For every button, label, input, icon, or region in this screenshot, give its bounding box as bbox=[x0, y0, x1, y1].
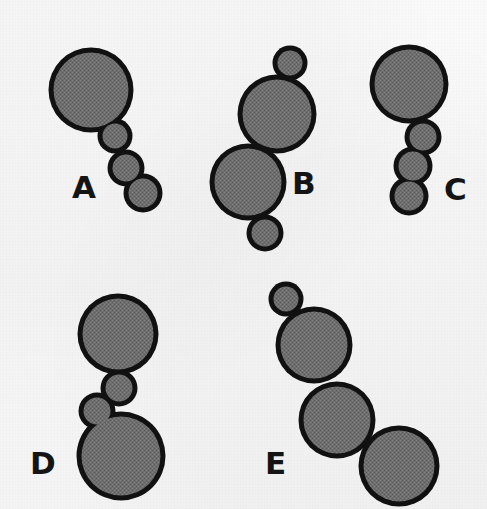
circle-group-e bbox=[269, 282, 440, 507]
circle-fill-e-1 bbox=[274, 287, 299, 312]
circle-fill-c-1 bbox=[375, 50, 444, 119]
circle-group-b bbox=[210, 46, 317, 252]
circle-fill-b-4 bbox=[252, 220, 279, 247]
circle-fill-d-2 bbox=[106, 375, 133, 402]
circle-groups-layer bbox=[49, 45, 449, 507]
circle-fill-b-3 bbox=[215, 149, 282, 216]
circle-group-c bbox=[370, 45, 449, 216]
circle-fill-b-1 bbox=[278, 51, 303, 76]
circle-fill-a-2 bbox=[103, 124, 128, 149]
circle-fill-a-1 bbox=[54, 53, 129, 128]
circle-fill-b-2 bbox=[243, 80, 312, 149]
circle-fill-e-4 bbox=[364, 431, 435, 502]
figure-canvas-container: ABCDE bbox=[0, 0, 487, 509]
circle-fill-c-2 bbox=[410, 124, 437, 151]
group-label-e: E bbox=[265, 448, 286, 479]
circle-fill-c-3 bbox=[399, 152, 428, 181]
group-label-b: B bbox=[292, 168, 316, 199]
circle-fill-e-2 bbox=[281, 312, 348, 379]
group-label-c: C bbox=[444, 174, 467, 205]
circle-fill-a-3 bbox=[113, 155, 140, 182]
circle-fill-a-4 bbox=[129, 179, 158, 208]
circle-fill-d-4 bbox=[82, 417, 161, 496]
circle-cluster-figure bbox=[0, 0, 487, 509]
group-label-a: A bbox=[72, 172, 96, 203]
circle-fill-e-3 bbox=[304, 387, 371, 454]
circle-fill-c-4 bbox=[395, 182, 424, 211]
group-label-d: D bbox=[30, 448, 56, 479]
circle-fill-d-1 bbox=[83, 299, 154, 370]
circle-group-d bbox=[77, 294, 166, 501]
circle-group-a bbox=[49, 48, 163, 213]
